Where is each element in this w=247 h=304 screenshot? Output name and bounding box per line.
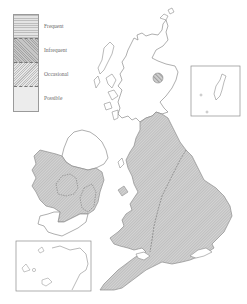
anglesey xyxy=(118,186,128,196)
british-isles-map xyxy=(0,0,247,304)
channel-island xyxy=(32,268,35,271)
england-wales-region xyxy=(100,112,232,290)
inner-hebrides-outline xyxy=(104,74,118,120)
scotland-outline xyxy=(118,20,178,122)
isle-of-man xyxy=(118,158,124,168)
orkney-outline xyxy=(160,8,174,20)
frequent-spot xyxy=(153,73,163,83)
